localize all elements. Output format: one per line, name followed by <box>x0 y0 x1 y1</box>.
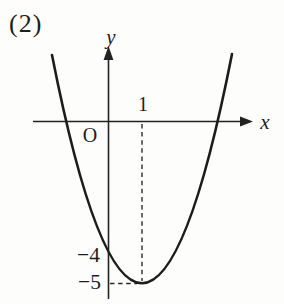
tick-label-x-1: 1 <box>138 93 148 115</box>
figure-number-label: (2) <box>9 9 42 39</box>
tick-label-y-minus4: −4 <box>77 243 100 267</box>
graph-svg: y x O 1 −4 −5 <box>0 0 284 304</box>
x-axis-label: x <box>259 110 270 134</box>
y-axis-label: y <box>104 25 116 49</box>
x-axis-arrowhead-icon <box>240 117 253 127</box>
origin-label: O <box>83 124 97 146</box>
tick-label-y-minus5: −5 <box>78 270 101 294</box>
parabola-figure: (2) y x O 1 −4 −5 <box>0 0 284 304</box>
